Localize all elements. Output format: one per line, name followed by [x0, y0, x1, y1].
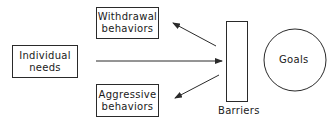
arrow-barriers-to-aggressive	[175, 75, 219, 98]
aggressive-line1: Aggressive	[99, 89, 157, 101]
individual-needs-line2: needs	[19, 62, 71, 74]
withdrawal-line2: behaviors	[98, 23, 157, 35]
individual-needs-box: Individual needs	[12, 45, 78, 78]
withdrawal-behaviors-box: Withdrawal behaviors	[96, 7, 159, 39]
goals-label: Goals	[279, 54, 308, 65]
aggressive-behaviors-box: Aggressive behaviors	[96, 84, 159, 117]
barriers-label: Barriers	[218, 105, 260, 116]
individual-needs-line1: Individual	[19, 50, 71, 62]
barriers-rect	[227, 22, 248, 102]
withdrawal-line1: Withdrawal	[98, 11, 157, 23]
arrow-barriers-to-withdrawal	[173, 23, 216, 46]
aggressive-line2: behaviors	[99, 101, 157, 113]
